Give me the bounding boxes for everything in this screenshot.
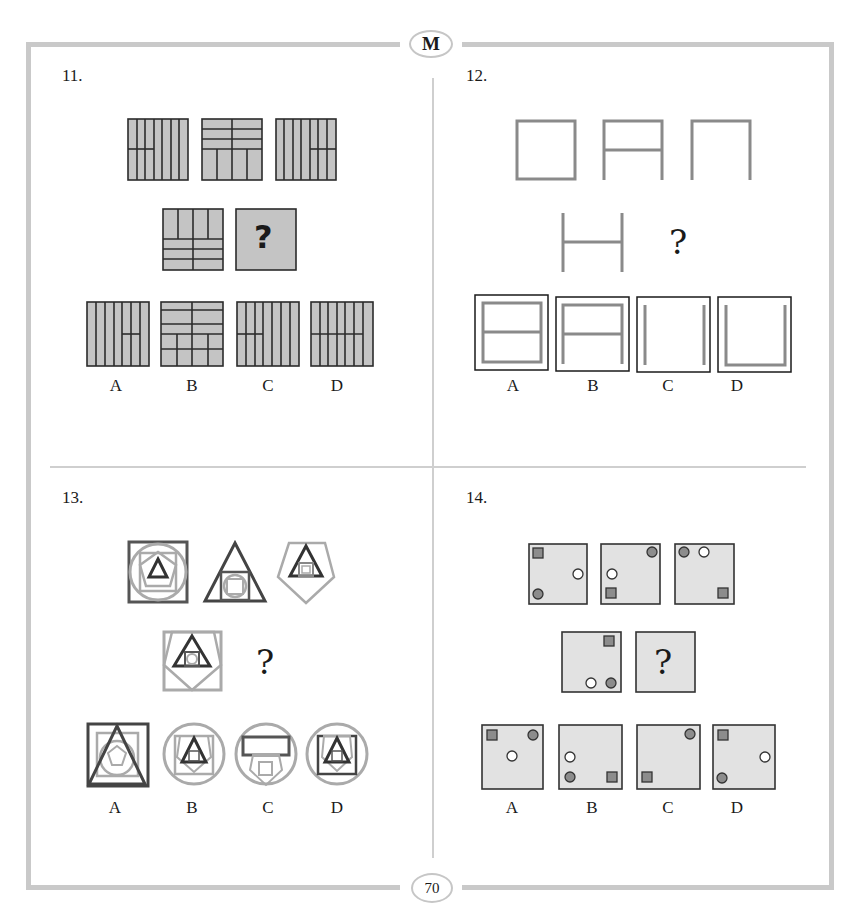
puzzle-14-shapes — [0, 0, 861, 914]
option-a[interactable]: A — [497, 798, 527, 818]
option-d[interactable]: D — [722, 798, 752, 818]
question-mark: ? — [654, 642, 672, 682]
option-c[interactable]: C — [653, 798, 683, 818]
option-b[interactable]: B — [577, 798, 607, 818]
